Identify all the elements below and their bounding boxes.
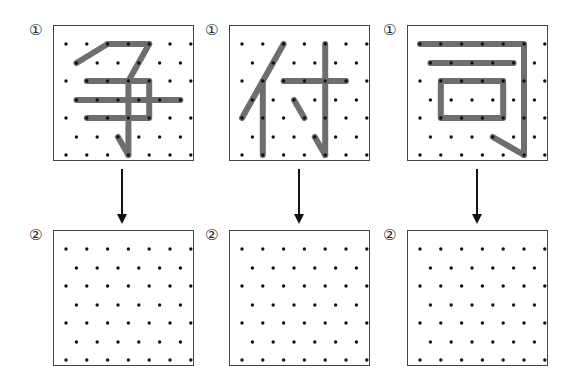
grid-dot (179, 340, 182, 343)
grid-dot (344, 321, 347, 324)
grid-dot (334, 98, 337, 101)
grid-dot (543, 116, 546, 119)
step-1-label: ① (29, 23, 42, 38)
grid-dot (240, 42, 243, 45)
grid-dot (127, 247, 130, 250)
grid-dot (418, 358, 421, 361)
grid-dot (106, 79, 109, 82)
grid-dot (251, 266, 254, 269)
grid-dot (522, 153, 525, 156)
grid-dot (429, 98, 432, 101)
grid-dot (522, 358, 525, 361)
grid-dot (502, 247, 505, 250)
dot-grid (408, 231, 549, 367)
grid-dot (261, 321, 264, 324)
grid-dot (85, 79, 88, 82)
grid-dot (522, 284, 525, 287)
arrow-head-icon (294, 214, 304, 224)
grid-dot (127, 116, 130, 119)
grid-dot (334, 340, 337, 343)
grid-dot (272, 98, 275, 101)
grid-dot (344, 79, 347, 82)
grid-dot (148, 358, 151, 361)
grid-dot (470, 340, 473, 343)
grid-dot (522, 247, 525, 250)
grid-dot (158, 303, 161, 306)
grid-dot (543, 284, 546, 287)
grid-dot (470, 303, 473, 306)
grid-dot (429, 340, 432, 343)
grid-dot (189, 79, 192, 82)
grid-dot (75, 61, 78, 64)
grid-dot (533, 98, 536, 101)
grid-dot (148, 321, 151, 324)
grid-dot (168, 358, 171, 361)
grid-dot (96, 135, 99, 138)
grid-dot (460, 284, 463, 287)
grid-dot (481, 42, 484, 45)
grid-dot (179, 61, 182, 64)
character-stroke (76, 44, 107, 63)
down-arrow-icon (476, 169, 478, 214)
grid-dot (303, 153, 306, 156)
grid-dot (543, 42, 546, 45)
grid-dot (64, 116, 67, 119)
grid-dot (106, 116, 109, 119)
grid-dot (85, 153, 88, 156)
grid-dot (282, 321, 285, 324)
grid-dot (491, 303, 494, 306)
grid-dot (261, 116, 264, 119)
grid-dot (512, 135, 515, 138)
grid-dot (334, 303, 337, 306)
dot-grid (54, 26, 195, 162)
grid-dot (460, 42, 463, 45)
grid-dot (365, 153, 368, 156)
grid-dot (168, 116, 171, 119)
grid-dot (429, 303, 432, 306)
grid-dot (334, 135, 337, 138)
grid-dot (189, 42, 192, 45)
practice-box-2 (229, 230, 370, 366)
grid-dot (365, 42, 368, 45)
grid-dot (355, 135, 358, 138)
grid-dot (85, 321, 88, 324)
grid-dot (137, 340, 140, 343)
dot-grid (54, 231, 195, 367)
grid-dot (460, 116, 463, 119)
grid-dot (491, 266, 494, 269)
grid-dot (502, 116, 505, 119)
practice-box-3 (407, 230, 548, 366)
grid-dot (522, 42, 525, 45)
grid-dot (189, 116, 192, 119)
grid-dot (85, 42, 88, 45)
grid-dot (512, 61, 515, 64)
grid-dot (481, 284, 484, 287)
grid-dot (533, 135, 536, 138)
grid-dot (292, 266, 295, 269)
grid-dot (522, 79, 525, 82)
grid-dot (470, 61, 473, 64)
grid-dot (282, 116, 285, 119)
grid-dot (189, 358, 192, 361)
grid-dot (261, 79, 264, 82)
grid-dot (481, 116, 484, 119)
grid-dot (282, 42, 285, 45)
grid-dot (272, 303, 275, 306)
grid-dot (481, 321, 484, 324)
grid-dot (106, 247, 109, 250)
grid-dot (365, 321, 368, 324)
grid-dot (439, 247, 442, 250)
grid-dot (543, 79, 546, 82)
grid-dot (282, 79, 285, 82)
grid-dot (344, 358, 347, 361)
grid-dot (303, 321, 306, 324)
grid-dot (324, 116, 327, 119)
grid-dot (127, 358, 130, 361)
grid-dot (127, 153, 130, 156)
grid-dot (533, 303, 536, 306)
grid-dot (470, 266, 473, 269)
grid-dot (418, 42, 421, 45)
grid-dot (106, 321, 109, 324)
grid-dot (324, 247, 327, 250)
grid-dot (512, 98, 515, 101)
